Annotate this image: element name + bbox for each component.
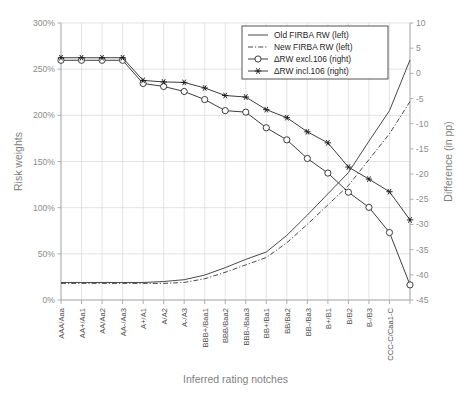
x-tick-label: BB+/Ba1 (262, 308, 271, 338)
x-tick-label: AA/Aa2 (98, 308, 107, 334)
x-tick-label: BB-/Ba3 (304, 308, 313, 336)
y-tick-label-left: 300% (33, 18, 55, 28)
legend-label: ΔRW excl.106 (right) (274, 54, 351, 64)
marker-circle (263, 125, 269, 131)
series-old-firba-rw-line (61, 60, 410, 283)
x-tick-label: AA-/Aa3 (119, 308, 128, 336)
y-tick-label-right: 10 (416, 18, 426, 28)
line-chart: 300%250%200%150%100%50%0%1050-5-10-15-20… (0, 0, 472, 406)
legend-label: New FIRBA RW (left) (274, 42, 353, 52)
y-tick-label-right: 0 (416, 68, 421, 78)
y-axis-right-ticks: 1050-5-10-15-20-25-30-35-40-45 (410, 18, 429, 305)
y-tick-label-left: 0% (43, 295, 56, 305)
x-tick-label: BBB-/Baa3 (242, 308, 251, 346)
y-tick-label-right: -15 (416, 144, 429, 154)
legend-swatch-circle-icon (255, 56, 261, 62)
series-drw-incl-106-line (61, 58, 410, 220)
marker-circle (161, 83, 167, 89)
y-axis-left-title: Risk weights (12, 132, 24, 191)
x-tick-label: BBB+/Baa1 (201, 308, 210, 347)
legend: Old FIRBA RW (left)New FIRBA RW (left)ΔR… (242, 26, 388, 79)
y-tick-label-right: -5 (416, 94, 424, 104)
marker-circle (386, 229, 392, 235)
marker-circle (366, 204, 372, 210)
marker-circle (202, 96, 208, 102)
x-tick-label: A/A2 (160, 308, 169, 324)
series-new-firba-rw (61, 101, 410, 283)
y-tick-label-right: -40 (416, 270, 429, 280)
marker-circle (407, 282, 413, 288)
y-tick-label-left: 250% (33, 64, 55, 74)
y-tick-label-right: 5 (416, 43, 421, 53)
y-tick-label-left: 50% (38, 249, 56, 259)
y-tick-label-right: -45 (416, 295, 429, 305)
marker-circle (345, 189, 351, 195)
y-tick-label-left: 150% (33, 157, 55, 167)
y-tick-label-right: -30 (416, 219, 429, 229)
marker-circle (284, 137, 290, 143)
y-axis-right-title: Difference (in pp) (442, 121, 454, 201)
y-tick-label-right: -25 (416, 194, 429, 204)
series-new-firba-rw-line (61, 101, 410, 283)
y-tick-label-left: 200% (33, 110, 55, 120)
x-tick-label: CCC-C/Caa1-C (386, 307, 395, 360)
series-drw-excl-106 (58, 57, 413, 288)
marker-circle (243, 109, 249, 115)
marker-circle (181, 88, 187, 94)
x-tick-label: BBB/Baa2 (221, 308, 230, 343)
marker-circle (325, 170, 331, 176)
x-tick-label: A+/A1 (139, 308, 148, 329)
marker-circle (304, 155, 310, 161)
x-axis-title: Inferred rating notches (183, 373, 288, 385)
series-drw-incl-106 (58, 55, 413, 223)
y-tick-label-right: -20 (416, 169, 429, 179)
x-tick-label: AAA/Aaa (57, 307, 66, 339)
y-tick-label-left: 100% (33, 203, 55, 213)
x-tick-label: B/B2 (345, 308, 354, 324)
y-tick-label-right: -10 (416, 119, 429, 129)
legend-label: Old FIRBA RW (left) (274, 30, 349, 40)
y-tick-label-right: -35 (416, 245, 429, 255)
legend-label: ΔRW incl.106 (right) (274, 66, 349, 76)
chart-container: 300%250%200%150%100%50%0%1050-5-10-15-20… (0, 0, 472, 406)
marker-circle (222, 108, 228, 114)
x-tick-label: BB/Ba2 (283, 308, 292, 334)
y-axis-left-ticks: 300%250%200%150%100%50%0% (33, 18, 61, 305)
x-tick-label: B+/B1 (324, 308, 333, 329)
x-tick-label: B-/B3 (365, 308, 374, 327)
x-axis-ticks: AAA/AaaAA+/Aa1AA/Aa2AA-/Aa3A+/A1A/A2A-/A… (57, 300, 410, 361)
series-old-firba-rw (61, 60, 410, 283)
x-tick-label: AA+/Aa1 (78, 308, 87, 338)
x-tick-label: A-/A3 (180, 308, 189, 327)
